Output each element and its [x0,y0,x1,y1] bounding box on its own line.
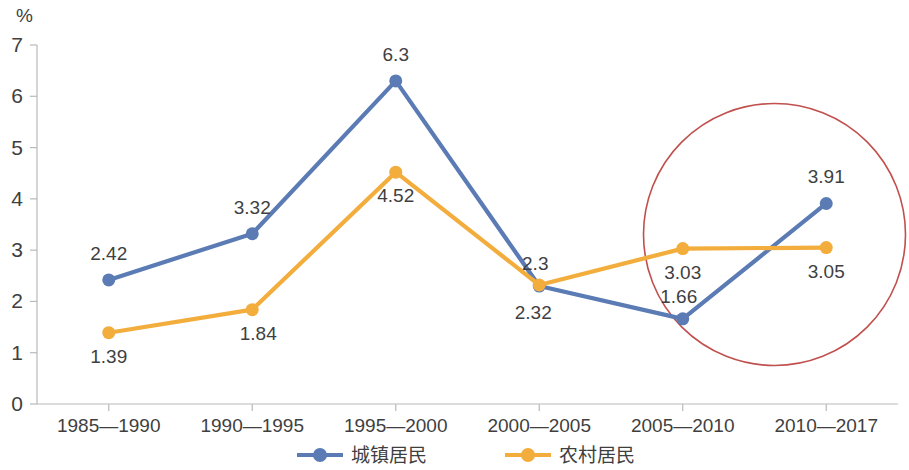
data-value-label: 3.05 [808,261,845,282]
chart-legend: 城镇居民农村居民 [297,445,635,466]
chart-annotations [644,104,906,366]
x-tick-label: 2000—2005 [487,415,591,436]
y-tick-label: 4 [11,187,23,210]
x-axis-ticks: 1985—19901990—19951995—20002000—20052005… [57,404,878,436]
legend-swatch-marker [313,448,327,462]
data-point-marker [389,166,402,179]
line-chart: % 01234567 1985—19901990—19951995—200020… [0,0,909,470]
data-value-label: 2.42 [90,243,127,264]
data-value-label: 3.32 [234,197,271,218]
legend-item[interactable]: 农村居民 [505,445,635,466]
x-tick-label: 2005—2010 [631,415,735,436]
series-rural [102,166,833,340]
data-point-marker [102,326,115,339]
data-value-label: 1.84 [240,323,277,344]
y-tick-label: 2 [11,289,23,312]
data-value-label: 1.39 [90,346,127,367]
data-value-label: 2.32 [515,302,552,323]
legend-item-label: 农村居民 [559,445,635,466]
y-axis-ticks: 01234567 [11,33,37,415]
y-tick-label: 5 [11,136,23,159]
series-urban [102,74,833,325]
highlight-circle-annotation [644,104,906,366]
y-tick-label: 6 [11,84,23,107]
data-point-marker [533,279,546,292]
data-point-marker [246,303,259,316]
data-value-label: 6.3 [383,44,409,65]
y-tick-label: 7 [11,33,23,56]
data-point-marker [676,242,689,255]
chart-canvas: % 01234567 1985—19901990—19951995—200020… [0,0,909,470]
legend-item[interactable]: 城镇居民 [297,445,427,466]
data-point-marker [102,273,115,286]
series-line-1 [109,172,827,333]
y-axis-unit-label: % [16,5,33,26]
data-point-marker [820,197,833,210]
data-value-label: 2.3 [522,253,548,274]
y-tick-label: 3 [11,238,23,261]
x-tick-label: 1985—1990 [57,415,161,436]
data-value-label: 3.03 [664,262,701,283]
x-tick-label: 1990—1995 [200,415,304,436]
legend-item-label: 城镇居民 [351,445,427,466]
x-tick-label: 1995—2000 [344,415,448,436]
legend-swatch-marker [521,448,535,462]
y-tick-label: 0 [11,392,23,415]
data-point-marker [676,312,689,325]
data-value-label: 4.52 [377,185,414,206]
data-point-marker [820,241,833,254]
x-tick-label: 2010—2017 [774,415,878,436]
chart-axes [37,45,898,404]
data-point-marker [389,74,402,87]
data-value-label: 3.91 [808,166,845,187]
data-point-marker [246,227,259,240]
data-value-label: 1.66 [660,286,697,307]
y-tick-label: 1 [11,341,23,364]
